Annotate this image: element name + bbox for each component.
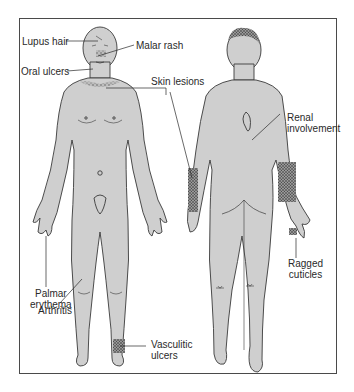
label-palmar-line1: Palmar xyxy=(35,288,67,299)
leader-oral-ulcers xyxy=(67,69,93,71)
label-renal-line2: involvement xyxy=(287,123,340,134)
left-forearm-lesions xyxy=(188,168,198,212)
label-vasculitic-line2: ulcers xyxy=(151,350,178,361)
label-oral-ulcers: Oral ulcers xyxy=(21,66,69,77)
label-renal-line1: Renal xyxy=(287,112,313,123)
label-arthritis: Arthritis xyxy=(38,305,72,316)
posterior-body xyxy=(187,28,310,372)
label-ragged-line1: Ragged xyxy=(288,258,323,269)
front-torso-limbs xyxy=(33,78,167,366)
label-vasculitic-ulcers: Vasculitic ulcers xyxy=(151,339,193,361)
body-diagram xyxy=(0,0,354,392)
label-ragged-line2: cuticles xyxy=(289,269,322,280)
label-renal-involvement: Renal involvement xyxy=(287,112,340,134)
leader-skin-lesions-b xyxy=(170,92,192,178)
right-forearm-lesions xyxy=(278,162,296,202)
label-skin-lesions: Skin lesions xyxy=(151,76,204,87)
label-vasculitic-line1: Vasculitic xyxy=(151,339,193,350)
label-ragged-cuticles: Ragged cuticles xyxy=(288,258,323,280)
malar-rash-area xyxy=(96,50,106,57)
label-lupus-hair: Lupus hair xyxy=(22,36,69,47)
label-malar-rash: Malar rash xyxy=(136,40,183,51)
